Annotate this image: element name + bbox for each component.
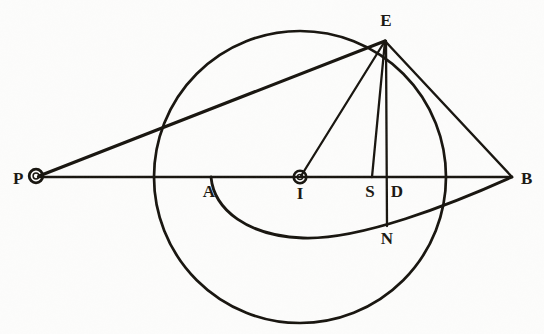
diagram-canvas: P A I S D B E N bbox=[0, 0, 544, 334]
geometry-figure: P A I S D B E N bbox=[0, 0, 544, 334]
segment-E-I bbox=[301, 41, 385, 176]
label-I: I bbox=[297, 184, 304, 203]
segment-E-S bbox=[372, 41, 385, 177]
label-D: D bbox=[391, 182, 403, 201]
label-S: S bbox=[365, 182, 374, 201]
label-A: A bbox=[203, 182, 216, 201]
segment-E-B bbox=[385, 41, 512, 177]
label-B: B bbox=[521, 169, 532, 188]
elliptical-arc-ANB bbox=[211, 177, 512, 238]
label-P: P bbox=[13, 169, 23, 188]
label-E: E bbox=[380, 11, 391, 30]
label-N: N bbox=[381, 229, 394, 248]
segment-E-N-vertical bbox=[386, 41, 387, 226]
